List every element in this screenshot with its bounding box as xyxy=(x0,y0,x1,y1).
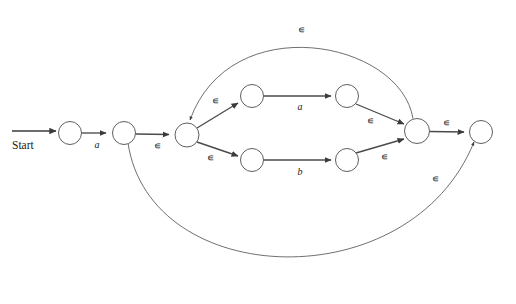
edge-q2-q3: ∊ xyxy=(197,96,238,128)
edge-q1-q2: ∊ xyxy=(136,134,170,151)
state-q3[interactable] xyxy=(241,85,264,108)
edge-q5-q6: b xyxy=(264,160,332,177)
edge-line-q4-q7 xyxy=(356,104,404,124)
state-q7[interactable] xyxy=(405,119,430,144)
edge-line-q6-q7 xyxy=(356,139,404,153)
edge-label-q7-q8: ∊ xyxy=(443,118,450,128)
start-arrow-group: Start xyxy=(12,131,56,151)
edge-label-q5-q6: b xyxy=(298,166,303,177)
edge-label-q1-q2: ∊ xyxy=(154,141,161,151)
edge-line-q7-q8 xyxy=(430,132,465,133)
nfa-canvas: Start a ∊ ∊ a ∊ b ∊ xyxy=(0,0,516,304)
edge-label-loop-top: ∊ xyxy=(298,25,305,35)
state-q2[interactable] xyxy=(175,123,199,147)
edge-label-q2-q3: ∊ xyxy=(212,96,219,106)
edge-q0-q1: a xyxy=(82,133,107,150)
edge-arc-bypass-bottom xyxy=(128,142,474,257)
state-q1[interactable] xyxy=(113,122,136,145)
edge-label-q4-q7: ∊ xyxy=(367,116,374,126)
edge-label-q2-q5: ∊ xyxy=(207,153,214,163)
edge-bypass-bottom: ∊ xyxy=(128,142,474,257)
edge-q7-q8: ∊ xyxy=(430,118,465,132)
start-label: Start xyxy=(12,139,35,151)
edge-q6-q7: ∊ xyxy=(356,139,404,162)
nfa-diagram: Start a ∊ ∊ a ∊ b ∊ xyxy=(0,0,516,304)
edge-line-q2-q5 xyxy=(197,142,238,156)
edge-label-q0-q1: a xyxy=(95,139,100,150)
edge-line-q1-q2 xyxy=(136,134,170,135)
edge-q3-q4: a xyxy=(264,96,332,112)
state-q8[interactable] xyxy=(470,121,493,144)
state-q6[interactable] xyxy=(336,149,359,172)
edge-line-q2-q3 xyxy=(197,103,238,128)
state-q4[interactable] xyxy=(336,85,359,108)
edge-label-bypass-bottom: ∊ xyxy=(432,174,439,184)
state-q0[interactable] xyxy=(59,122,82,145)
edge-label-q6-q7: ∊ xyxy=(381,152,388,162)
edge-q2-q5: ∊ xyxy=(197,142,238,163)
edge-q4-q7: ∊ xyxy=(356,104,404,126)
state-q5[interactable] xyxy=(241,149,264,172)
edge-label-q3-q4: a xyxy=(298,101,303,112)
